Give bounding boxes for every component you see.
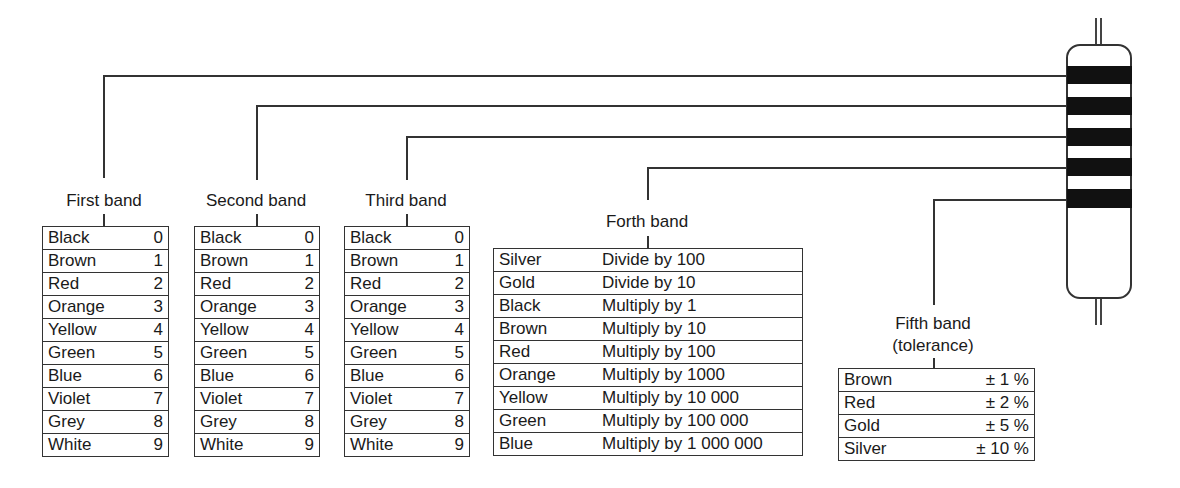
table-row: RedMultiply by 100	[494, 341, 803, 364]
color-name-cell: Red	[494, 341, 597, 364]
table-row: Blue6	[43, 365, 169, 388]
table-row: Orange3	[195, 296, 320, 319]
resistor-top-lead-left	[1095, 18, 1097, 45]
color-name-cell: Violet	[43, 388, 140, 411]
table-row: BlackMultiply by 1	[494, 295, 803, 318]
leader-line-4-horizontal	[647, 167, 1067, 169]
color-name-cell: Violet	[195, 388, 291, 411]
digit-cell: 5	[291, 342, 320, 365]
digit-cell: 3	[140, 296, 169, 319]
digit-cell: 0	[441, 227, 470, 250]
digit-cell: 2	[291, 273, 320, 296]
fifth-band-label-line2: (tolerance)	[863, 335, 1003, 356]
table-row: Violet7	[195, 388, 320, 411]
forth-band-table: SilverDivide by 100GoldDivide by 10Black…	[493, 248, 803, 456]
multiplier-cell: Multiply by 1000	[596, 364, 803, 387]
leader-line-2-horizontal	[256, 105, 1067, 107]
first-band-table: Black0Brown1Red2Orange3Yellow4Green5Blue…	[42, 226, 169, 457]
table-row: Yellow4	[43, 319, 169, 342]
multiplier-cell: Divide by 10	[596, 272, 803, 295]
table-row: White9	[345, 434, 470, 457]
color-name-cell: Silver	[839, 438, 933, 461]
color-name-cell: Brown	[494, 318, 597, 341]
color-name-cell: Red	[195, 273, 291, 296]
leader-line-5-horizontal	[933, 199, 1067, 201]
table-row: Black0	[195, 227, 320, 250]
digit-cell: 0	[291, 227, 320, 250]
third-band-label: Third band	[345, 190, 467, 211]
color-name-cell: White	[43, 434, 140, 457]
tick-5	[933, 358, 935, 368]
color-name-cell: Yellow	[345, 319, 441, 342]
table-row: SilverDivide by 100	[494, 249, 803, 272]
digit-cell: 4	[291, 319, 320, 342]
digit-cell: 6	[291, 365, 320, 388]
fifth-band-label-line1: Fifth band	[863, 313, 1003, 334]
color-name-cell: Brown	[195, 250, 291, 273]
digit-cell: 9	[140, 434, 169, 457]
color-name-cell: Blue	[195, 365, 291, 388]
table-row: Brown1	[345, 250, 470, 273]
color-name-cell: Gold	[839, 415, 933, 438]
color-name-cell: Yellow	[494, 387, 597, 410]
color-name-cell: Green	[195, 342, 291, 365]
color-name-cell: Blue	[43, 365, 140, 388]
table-row: Black0	[345, 227, 470, 250]
resistor-top-lead-right	[1100, 18, 1102, 45]
multiplier-cell: Multiply by 100	[596, 341, 803, 364]
table-row: BlueMultiply by 1 000 000	[494, 433, 803, 456]
color-name-cell: Yellow	[43, 319, 140, 342]
table-row: Green5	[43, 342, 169, 365]
color-name-cell: Black	[195, 227, 291, 250]
digit-cell: 8	[291, 411, 320, 434]
color-name-cell: Grey	[345, 411, 441, 434]
color-name-cell: Violet	[345, 388, 441, 411]
table-row: Green5	[195, 342, 320, 365]
table-row: White9	[195, 434, 320, 457]
color-name-cell: Green	[43, 342, 140, 365]
color-name-cell: Orange	[195, 296, 291, 319]
color-name-cell: Orange	[494, 364, 597, 387]
resistor-stripe-3	[1067, 128, 1132, 146]
table-row: Green5	[345, 342, 470, 365]
color-name-cell: Red	[839, 392, 933, 415]
digit-cell: 2	[140, 273, 169, 296]
resistor-stripe-1	[1067, 66, 1132, 84]
tick-2	[256, 214, 258, 226]
table-row: Blue6	[345, 365, 470, 388]
digit-cell: 1	[441, 250, 470, 273]
table-row: Red± 2 %	[839, 392, 1035, 415]
table-row: Grey8	[345, 411, 470, 434]
second-band-table: Black0Brown1Red2Orange3Yellow4Green5Blue…	[194, 226, 320, 457]
tick-3	[406, 214, 408, 226]
color-name-cell: Grey	[195, 411, 291, 434]
color-name-cell: Red	[43, 273, 140, 296]
color-name-cell: White	[345, 434, 441, 457]
tolerance-cell: ± 2 %	[933, 392, 1035, 415]
second-band-label: Second band	[190, 190, 322, 211]
table-row: Violet7	[43, 388, 169, 411]
table-row: Red2	[43, 273, 169, 296]
digit-cell: 6	[441, 365, 470, 388]
table-row: Orange3	[345, 296, 470, 319]
table-row: Violet7	[345, 388, 470, 411]
resistor-bottom-lead-left	[1095, 298, 1097, 325]
leader-line-1-vertical	[103, 75, 105, 178]
color-name-cell: Orange	[43, 296, 140, 319]
color-name-cell: White	[195, 434, 291, 457]
color-name-cell: Black	[345, 227, 441, 250]
digit-cell: 7	[441, 388, 470, 411]
digit-cell: 2	[441, 273, 470, 296]
digit-cell: 1	[140, 250, 169, 273]
digit-cell: 9	[441, 434, 470, 457]
multiplier-cell: Divide by 100	[596, 249, 803, 272]
leader-line-2-vertical	[256, 105, 258, 180]
color-name-cell: Brown	[345, 250, 441, 273]
digit-cell: 8	[140, 411, 169, 434]
color-name-cell: Brown	[839, 369, 933, 392]
table-row: GoldDivide by 10	[494, 272, 803, 295]
tick-4	[647, 236, 649, 248]
color-name-cell: Blue	[345, 365, 441, 388]
table-row: Red2	[195, 273, 320, 296]
leader-line-4-vertical	[647, 167, 649, 200]
